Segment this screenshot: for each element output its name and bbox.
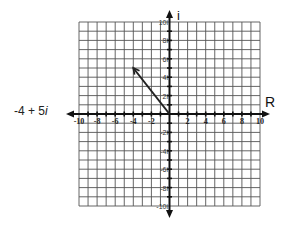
- x-tick-label: -6: [112, 117, 119, 126]
- x-tick-label: 8: [240, 117, 244, 126]
- x-tick-label: -10: [74, 117, 85, 126]
- y-tick-label: 8i: [163, 37, 169, 44]
- imaginary-axis-label: i: [177, 8, 180, 23]
- y-tick-label: -10i: [156, 203, 168, 210]
- y-tick-label: -6i: [160, 166, 168, 173]
- y-tick-label: 6i: [163, 56, 169, 63]
- y-tick-label: 2i: [163, 93, 169, 100]
- x-tick-label: -2: [148, 117, 155, 126]
- x-tick-label: 6: [222, 117, 226, 126]
- y-tick-label: 4i: [163, 74, 169, 81]
- y-tick-label: 10i: [159, 19, 169, 26]
- x-tick-label: -4: [130, 117, 137, 126]
- arrow-up-icon: [166, 10, 173, 18]
- arrow-down-icon: [166, 210, 173, 218]
- x-tick-label: 4: [204, 117, 208, 126]
- x-tick-label: 2: [186, 117, 190, 126]
- y-tick-label: -2i: [160, 129, 168, 136]
- real-axis-label: R: [265, 94, 275, 110]
- complex-plane-chart: -10-8-6-4-224681010i8i6i4i2i-2i-4i-6i-8i…: [0, 0, 286, 232]
- x-tick-label: 10: [256, 117, 264, 126]
- x-tick-label: -8: [94, 117, 101, 126]
- y-tick-label: -8i: [160, 185, 168, 192]
- y-tick-label: -4i: [160, 148, 168, 155]
